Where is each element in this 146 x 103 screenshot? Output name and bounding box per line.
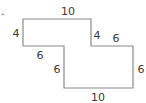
label-upper-step-vertical: 4 [94, 29, 101, 42]
label-top: 10 [61, 5, 75, 18]
list-marker: . [1, 5, 5, 18]
label-left: 4 [13, 27, 20, 40]
label-upper-step-horizontal: 6 [113, 32, 120, 45]
label-lower-step-horizontal: 6 [37, 49, 44, 62]
shape-diagram: . 10 4 4 6 6 6 6 10 [0, 0, 146, 103]
label-lower-step-vertical: 6 [54, 63, 61, 76]
label-right: 6 [138, 63, 145, 76]
label-bottom: 10 [91, 91, 105, 103]
